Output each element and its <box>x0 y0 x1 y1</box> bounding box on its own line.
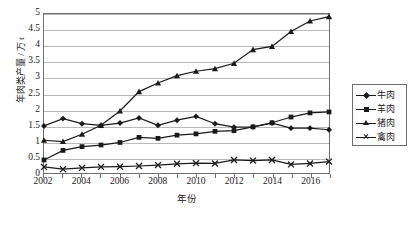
legend-item-禽肉[interactable]: 禽肉 <box>355 130 404 144</box>
x-axis-tick-label: 2006 <box>100 176 140 187</box>
data-point-marker <box>175 133 180 138</box>
y-axis-tick-label: 4.5 <box>14 24 40 34</box>
data-point-marker <box>79 131 85 137</box>
data-point-marker <box>213 129 218 134</box>
legend-label: 猪肉 <box>377 117 395 129</box>
series-lines <box>44 14 329 173</box>
legend-marker-cross-icon <box>355 131 377 143</box>
data-point-marker <box>80 144 85 149</box>
data-point-marker <box>194 132 199 137</box>
x-axis-tick-label: 2002 <box>23 176 63 187</box>
data-point-marker <box>326 127 332 133</box>
data-point-marker <box>136 115 142 121</box>
data-point-marker <box>251 125 256 130</box>
data-point-marker <box>155 122 161 128</box>
legend-marker-diamond-icon <box>355 89 377 101</box>
data-point-marker <box>307 125 313 131</box>
y-axis-tick-label: 3.5 <box>14 56 40 66</box>
data-point-marker <box>288 28 294 34</box>
y-axis-tick-label: 4 <box>14 40 40 50</box>
x-axis-title: 年份 <box>43 191 330 205</box>
data-point-marker <box>117 120 123 126</box>
data-point-marker <box>136 89 142 95</box>
legend-marker-square-icon <box>355 103 377 115</box>
data-point-marker <box>270 120 275 125</box>
plot-area <box>43 13 330 174</box>
data-point-marker <box>137 135 142 140</box>
data-point-marker <box>174 117 180 123</box>
x-axis-tick-labels: 20022004200620082010201220142016 <box>0 176 410 190</box>
data-point-marker <box>288 125 294 131</box>
y-axis-tick-label: 1.5 <box>14 121 40 131</box>
data-point-marker <box>193 113 199 119</box>
series-牛肉 <box>41 113 332 132</box>
data-point-marker <box>41 123 47 129</box>
series-line <box>44 160 329 169</box>
series-禽肉 <box>41 157 332 172</box>
y-axis-tick-label: 2 <box>14 105 40 115</box>
legend-label: 牛肉 <box>377 89 395 101</box>
legend-label: 禽肉 <box>377 131 395 143</box>
y-axis-tick-label: 0.5 <box>14 153 40 163</box>
data-point-marker <box>99 143 104 148</box>
data-point-marker <box>60 116 66 122</box>
legend-label: 羊肉 <box>377 103 395 115</box>
y-axis-tick-label: 3 <box>14 72 40 82</box>
legend-item-牛肉[interactable]: 牛肉 <box>355 88 404 102</box>
data-point-marker <box>232 128 237 133</box>
x-axis-tick-label: 2010 <box>176 176 216 187</box>
series-line <box>44 112 329 160</box>
data-point-marker <box>289 115 294 120</box>
x-axis-tick-label: 2012 <box>214 176 254 187</box>
data-point-marker <box>79 121 85 127</box>
series-line <box>44 17 329 142</box>
chart-figure: 年肉类产量 / 万 t 00.511.522.533.544.55 200220… <box>0 0 410 228</box>
data-point-marker <box>212 121 218 127</box>
data-point-marker <box>327 110 332 115</box>
y-axis-tick-label: 5 <box>14 8 40 18</box>
x-axis-tick-label: 2004 <box>61 176 101 187</box>
data-point-marker <box>308 111 313 116</box>
legend-item-猪肉[interactable]: 猪肉 <box>355 116 404 130</box>
x-axis-tick-label: 2014 <box>253 176 293 187</box>
y-axis-tick-labels: 00.511.522.533.544.55 <box>8 0 40 228</box>
data-point-marker <box>42 158 47 163</box>
legend-marker-triangle-icon <box>355 117 377 129</box>
data-point-marker <box>118 140 123 145</box>
x-axis-tick-label: 2008 <box>138 176 178 187</box>
legend-item-羊肉[interactable]: 羊肉 <box>355 102 404 116</box>
data-point-marker <box>61 148 66 153</box>
x-axis-tick-label: 2016 <box>291 176 331 187</box>
legend: 牛肉羊肉猪肉禽肉 <box>352 84 407 146</box>
y-axis-tick-label: 1 <box>14 137 40 147</box>
data-point-marker <box>326 13 332 19</box>
y-axis-tick-label: 2.5 <box>14 89 40 99</box>
data-point-marker <box>156 136 161 141</box>
series-羊肉 <box>42 110 332 163</box>
